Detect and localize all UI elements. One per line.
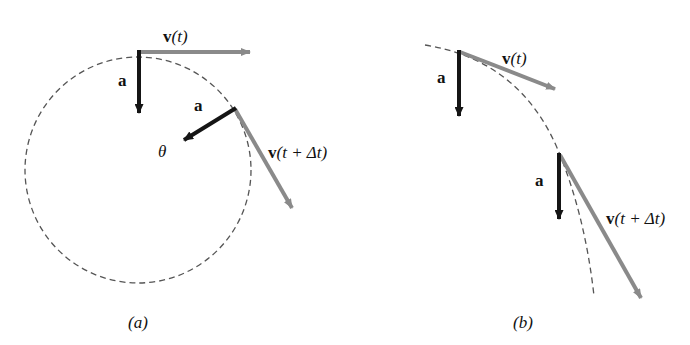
panel-b: v(t) a a v(t + Δt) (b) bbox=[425, 45, 666, 332]
caption-a: (a) bbox=[128, 313, 148, 332]
label-v-t-dt: v(t + Δt) bbox=[606, 209, 666, 228]
label-a-2: a bbox=[535, 171, 544, 190]
label-v-t-dt: v(t + Δt) bbox=[268, 143, 328, 162]
label-a-1: a bbox=[118, 71, 127, 90]
panel-a: v(t) a a θ v(t + Δt) (a) bbox=[25, 27, 328, 332]
velocity-acceleration-diagram: v(t) a a θ v(t + Δt) (a) v(t) a a v(t + … bbox=[0, 0, 690, 345]
label-v-t: v(t) bbox=[163, 27, 188, 46]
label-a-2: a bbox=[194, 96, 203, 115]
caption-b: (b) bbox=[513, 313, 533, 332]
acceleration-vector-2 bbox=[184, 108, 236, 140]
label-theta: θ bbox=[158, 142, 166, 161]
label-a-1: a bbox=[437, 68, 446, 87]
label-v-t: v(t) bbox=[502, 49, 527, 68]
